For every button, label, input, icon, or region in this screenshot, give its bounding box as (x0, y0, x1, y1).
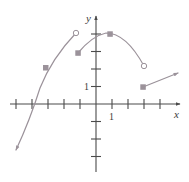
x-tick-label-1: 1 (109, 111, 114, 122)
right-branch-segment (143, 73, 178, 87)
open-circle-left-branch-end (73, 30, 78, 35)
filled-square-middle-branch-vertex (107, 31, 113, 37)
graph-figure: x y 1 1 (0, 0, 189, 182)
y-axis-label: y (85, 12, 91, 24)
left-branch-curve (16, 33, 76, 150)
markers-group (43, 30, 147, 90)
filled-square-middle-branch-start (75, 50, 81, 56)
coordinate-plot: x y 1 1 (0, 0, 189, 182)
curves-group (16, 33, 178, 150)
filled-square-right-branch-start (140, 84, 146, 90)
x-axis-label: x (173, 108, 179, 120)
middle-branch-curve (78, 33, 144, 66)
filled-square-left-branch (43, 65, 49, 71)
open-circle-middle-branch-end (141, 63, 146, 68)
y-tick-label-1: 1 (84, 81, 89, 92)
axes-group (10, 16, 180, 172)
